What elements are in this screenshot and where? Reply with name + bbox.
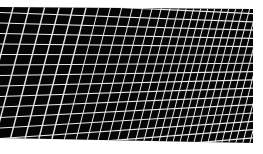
solar-panel-photo <box>0 0 263 154</box>
solar-panel-grid-graphic <box>0 0 263 154</box>
